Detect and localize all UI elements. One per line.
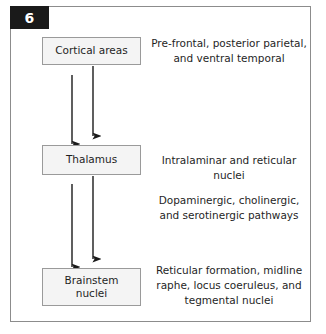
note-pathways: Dopaminergic, cholinergic, and serotiner… xyxy=(150,193,308,223)
node-label: Brainstemnuclei xyxy=(61,274,123,300)
note-thalamus: Intralaminar and reticular nuclei xyxy=(150,153,308,183)
node-brainstem-nuclei[interactable]: Brainstemnuclei xyxy=(42,268,141,306)
figure-panel: 6 Cortical areas Tha xyxy=(0,0,326,334)
node-cortical-areas[interactable]: Cortical areas xyxy=(42,37,141,65)
figure-number-badge: 6 xyxy=(10,6,49,29)
node-thalamus[interactable]: Thalamus xyxy=(42,145,141,175)
node-label: Thalamus xyxy=(62,153,121,166)
note-brainstem-nuclei: Reticular formation, midline raphe, locu… xyxy=(150,263,308,309)
node-label: Cortical areas xyxy=(51,44,131,57)
note-cortical-areas: Pre-frontal, posterior parietal, and ven… xyxy=(150,36,308,66)
